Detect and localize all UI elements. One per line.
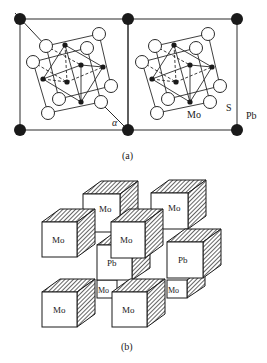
cube-mo-front-center: Mo [111,209,163,258]
svg-text:Mo: Mo [53,305,66,315]
alpha-label: α [112,117,118,128]
crystal-structure-figure: α Mo S Pb (a) Mo Mo Mo Mo [0,0,267,363]
svg-text:Mo: Mo [120,235,133,245]
cube-mo-bottom-right: Mo [112,279,165,327]
figure-b-cubes: Mo Mo Mo Mo Pb [42,180,221,327]
svg-text:Mo: Mo [168,286,179,295]
svg-text:Pb: Pb [178,255,188,265]
caption-b: (b) [121,341,133,353]
caption-a: (a) [122,150,133,162]
mo-label: Mo [187,109,201,120]
svg-text:Pb: Pb [107,258,117,268]
svg-text:Mo: Mo [98,286,109,295]
cube-mo-front-left: Mo [42,209,95,257]
svg-text:Mo: Mo [122,305,135,315]
cube-mo-bottom-left: Mo [42,279,95,327]
s-label: S [226,102,232,113]
svg-text:Mo: Mo [99,204,112,214]
svg-text:Mo: Mo [168,203,181,213]
s-atoms-left [27,28,118,120]
svg-text:Mo: Mo [52,235,65,245]
s-atoms-right [136,28,227,120]
pb-label: Pb [246,110,257,121]
cube-pb-right: Pb [167,229,221,278]
